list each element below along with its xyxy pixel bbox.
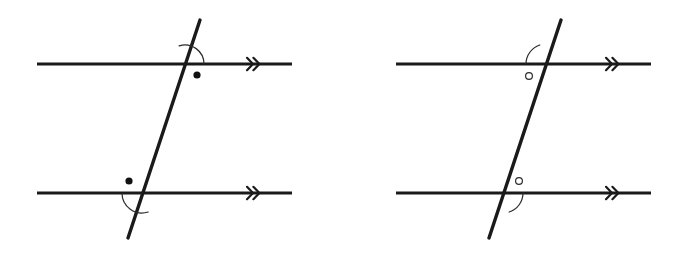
upper-angle-mark-marker <box>193 71 200 78</box>
lower-angle-mark-marker <box>125 177 132 184</box>
figure-background <box>0 0 690 264</box>
geometry-figure-canvas: Parallel lines cut by a transversal — tw… <box>0 0 690 264</box>
figure-root: Parallel lines cut by a transversal — tw… <box>0 0 690 264</box>
